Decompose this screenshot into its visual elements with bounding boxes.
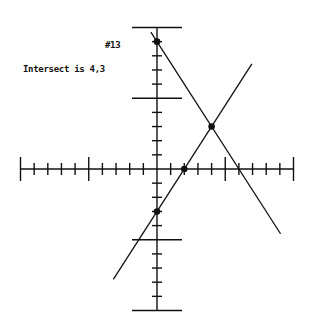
plotted-points bbox=[154, 38, 215, 214]
plotted-point bbox=[154, 208, 161, 215]
graphed-lines bbox=[113, 32, 280, 279]
line-1 bbox=[151, 32, 281, 234]
plotted-point bbox=[208, 123, 215, 130]
plotted-point bbox=[181, 166, 188, 173]
plotted-point bbox=[154, 38, 161, 45]
axes bbox=[21, 28, 294, 311]
coordinate-plane bbox=[0, 0, 312, 335]
